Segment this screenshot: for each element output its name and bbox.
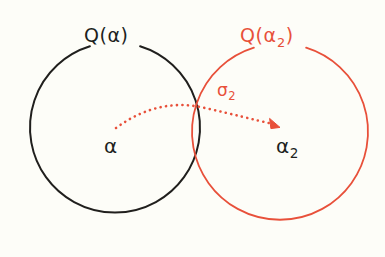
set-label-right-close: ) bbox=[286, 24, 294, 46]
morphism-label-sigma-2: σ2 bbox=[217, 82, 236, 103]
point-label-alpha-2-subscript: 2 bbox=[289, 145, 298, 161]
point-label-alpha: α bbox=[104, 136, 117, 156]
set-label-right-open: Q( bbox=[240, 24, 263, 46]
set-label-left-arg: α bbox=[107, 24, 120, 46]
morphism-arrowhead-icon bbox=[270, 118, 280, 128]
set-label-left: Q(α) bbox=[84, 26, 128, 45]
point-label-alpha-2: α2 bbox=[276, 136, 298, 161]
set-label-right: Q(α2) bbox=[240, 26, 294, 50]
set-label-right-subscript: 2 bbox=[276, 35, 285, 50]
diagram-canvas: Q(α) Q(α2) α α2 σ2 bbox=[0, 0, 385, 257]
morphism-label-sigma-subscript: 2 bbox=[228, 89, 236, 103]
morphism-label-sigma-text: σ bbox=[217, 80, 228, 100]
set-label-left-close: ) bbox=[120, 24, 128, 46]
set-label-left-open: Q( bbox=[84, 24, 107, 46]
set-circle-left bbox=[30, 46, 200, 212]
set-label-right-arg: α bbox=[263, 24, 276, 46]
diagram-svg bbox=[0, 0, 385, 257]
point-label-alpha-2-text: α bbox=[276, 134, 289, 158]
point-label-alpha-text: α bbox=[104, 134, 117, 158]
